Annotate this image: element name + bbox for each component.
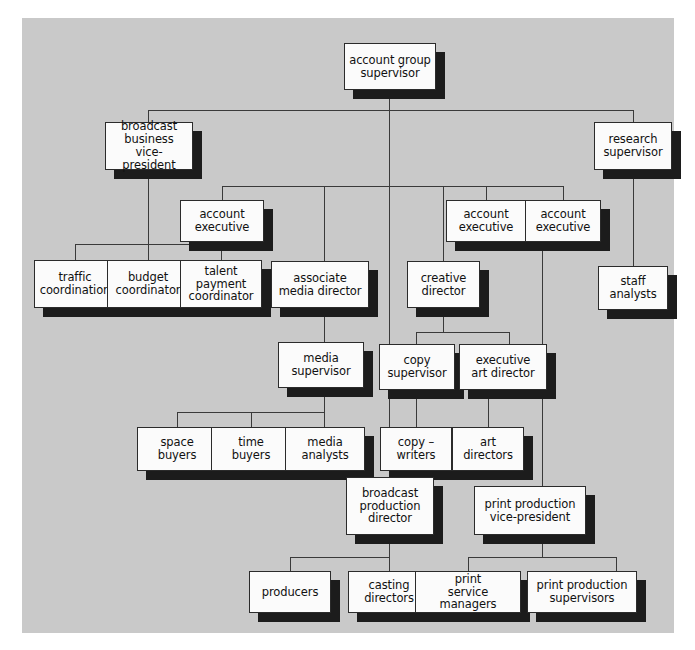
connector-level1-bus	[148, 110, 634, 111]
node-face: traffic coordination	[34, 260, 116, 308]
node-face: account executive	[525, 200, 601, 242]
connector-to-associate-media-director	[324, 186, 325, 261]
node-associate-media-director[interactable]: associate media director	[271, 261, 369, 308]
node-label: print production vice-president	[485, 498, 576, 524]
connector-to-space-buyers	[177, 412, 178, 427]
node-label: copy supervisor	[387, 354, 446, 380]
node-face: broadcast business vice-president	[105, 122, 193, 170]
node-print-service-managers[interactable]: print service managers	[415, 571, 521, 613]
node-traffic-coordination[interactable]: traffic coordination	[34, 260, 116, 308]
node-executive-art-director[interactable]: executive art director	[459, 344, 547, 390]
node-producers[interactable]: producers	[249, 571, 331, 613]
connector-to-account-exec-1	[222, 186, 223, 200]
node-face: budget coordinator	[107, 260, 189, 308]
node-talent-payment-coordinator[interactable]: talent payment coordinator	[180, 260, 262, 308]
node-label: media analysts	[301, 436, 348, 462]
node-label: traffic coordination	[40, 271, 111, 297]
node-label: account executive	[195, 208, 250, 234]
node-account-executive-3[interactable]: account executive	[525, 200, 601, 242]
node-face: time buyers	[211, 427, 291, 471]
connector-print-vp-bus	[468, 557, 616, 558]
node-label: print service managers	[419, 573, 517, 612]
connector-to-account-exec-2	[486, 186, 487, 200]
node-face: research supervisor	[594, 122, 672, 170]
connector-to-traffic-coordination	[75, 244, 76, 260]
node-label: budget coordinator	[116, 271, 181, 297]
node-media-supervisor[interactable]: media supervisor	[278, 342, 364, 388]
node-face: print production supervisors	[527, 571, 637, 613]
connector-to-research-supervisor	[633, 110, 634, 122]
connector-broadcast-prod-bus	[290, 557, 390, 558]
connector-to-executive-art-director	[509, 332, 510, 344]
node-label: casting directors	[364, 579, 414, 605]
node-copy-supervisor[interactable]: copy supervisor	[379, 344, 455, 390]
connector-to-print-service-managers	[468, 557, 469, 571]
node-face: art directors	[452, 427, 524, 471]
node-print-production-supervisors[interactable]: print production supervisors	[527, 571, 637, 613]
connector-research-to-staff-analysts	[633, 170, 634, 266]
node-space-buyers[interactable]: space buyers	[137, 427, 217, 471]
connector-to-media-analysts	[324, 412, 325, 427]
connector-to-producers	[290, 557, 291, 571]
node-face: media analysts	[285, 427, 365, 471]
connector-to-budget-coordinator	[148, 244, 149, 260]
node-art-directors[interactable]: art directors	[452, 427, 524, 471]
node-face: broadcast production director	[346, 477, 434, 535]
connector-to-time-buyers	[251, 412, 252, 427]
node-label: space buyers	[158, 436, 197, 462]
node-face: account executive	[180, 200, 264, 242]
node-face: account executive	[446, 200, 526, 242]
node-label: account executive	[459, 208, 514, 234]
node-label: account executive	[536, 208, 591, 234]
node-broadcast-production-director[interactable]: broadcast production director	[346, 477, 434, 535]
node-label: associate media director	[279, 272, 362, 298]
node-account-executive-2[interactable]: account executive	[446, 200, 526, 242]
node-creative-director[interactable]: creative director	[407, 261, 480, 308]
node-print-production-vp[interactable]: print production vice-president	[474, 486, 586, 535]
node-media-analysts[interactable]: media analysts	[285, 427, 365, 471]
node-staff-analysts[interactable]: staff analysts	[598, 266, 668, 310]
node-budget-coordinator[interactable]: budget coordinator	[107, 260, 189, 308]
node-label: producers	[262, 586, 319, 599]
connector-level2-bus	[222, 186, 563, 187]
connector-to-casting-directors	[389, 557, 390, 571]
node-face: print service managers	[415, 571, 521, 613]
node-face: associate media director	[271, 261, 369, 308]
node-label: research supervisor	[603, 133, 662, 159]
node-face: staff analysts	[598, 266, 668, 310]
node-label: talent payment coordinator	[189, 265, 254, 304]
node-face: copy – writers	[380, 427, 452, 471]
org-chart-canvas: account group supervisor broadcast busin…	[22, 18, 674, 633]
connector-to-print-production-supervisors	[616, 557, 617, 571]
connector-broadcast-vp-stem	[148, 170, 149, 244]
node-account-executive-1[interactable]: account executive	[180, 200, 264, 242]
node-label: staff analysts	[609, 275, 656, 301]
node-face: print production vice-president	[474, 486, 586, 535]
node-label: broadcast production director	[360, 487, 421, 526]
node-time-buyers[interactable]: time buyers	[211, 427, 291, 471]
node-label: account group supervisor	[349, 54, 431, 80]
node-face: media supervisor	[278, 342, 364, 388]
connector-to-creative-director	[443, 186, 444, 261]
connector-to-copy-supervisor	[416, 332, 417, 344]
node-label: copy – writers	[397, 436, 436, 462]
node-label: creative director	[421, 272, 467, 298]
node-face: executive art director	[459, 344, 547, 390]
node-label: print production supervisors	[537, 579, 628, 605]
node-face: copy supervisor	[379, 344, 455, 390]
node-research-supervisor[interactable]: research supervisor	[594, 122, 672, 170]
node-face: account group supervisor	[344, 43, 436, 90]
node-face: creative director	[407, 261, 480, 308]
connector-root-to-level2	[389, 110, 390, 186]
node-label: art directors	[463, 436, 513, 462]
node-face: producers	[249, 571, 331, 613]
org-chart-page: account group supervisor broadcast busin…	[0, 0, 695, 650]
node-copy-writers[interactable]: copy – writers	[380, 427, 452, 471]
node-account-group-supervisor[interactable]: account group supervisor	[344, 43, 436, 90]
node-label: executive art director	[471, 354, 534, 380]
connector-to-account-exec-3	[563, 186, 564, 200]
node-label: time buyers	[232, 436, 271, 462]
node-face: talent payment coordinator	[180, 260, 262, 308]
node-broadcast-business-vp[interactable]: broadcast business vice-president	[105, 122, 193, 170]
connector-creative-bus	[416, 332, 509, 333]
